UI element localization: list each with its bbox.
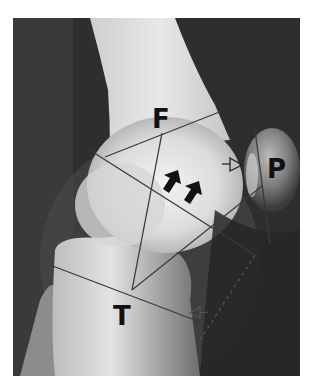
- knee-xray-image: F P T: [0, 0, 312, 390]
- femur-label: F: [152, 104, 170, 134]
- patella-label: P: [267, 154, 286, 184]
- tibia-label: T: [113, 301, 131, 331]
